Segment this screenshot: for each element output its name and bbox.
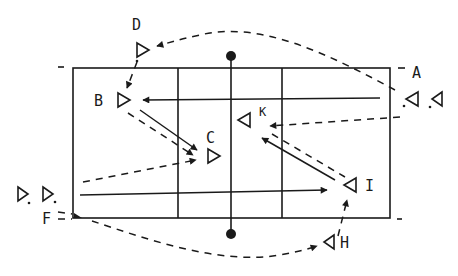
- label-C: C: [206, 129, 215, 147]
- player-C-icon: [208, 149, 220, 163]
- player-D-icon: [137, 43, 149, 57]
- player-K-icon: [238, 113, 250, 127]
- arrow-E-to-I: [80, 190, 327, 195]
- label-I: I: [365, 177, 374, 195]
- label-H: H: [340, 234, 349, 252]
- net-post-bottom-icon: [226, 229, 236, 239]
- player-E2-icon: [43, 187, 53, 201]
- arrow-B-to-C: [140, 110, 197, 150]
- label-D: D: [132, 16, 141, 34]
- arrow-I-to-K: [262, 138, 335, 180]
- court-diagram: A B C D F H I K: [0, 0, 458, 276]
- player-H-icon: [324, 235, 334, 249]
- player-A2-icon: [432, 92, 442, 106]
- dashed-arrow-D-to-B: [127, 62, 137, 88]
- dashed-arrow-E-to-C: [83, 160, 196, 182]
- player-E1-icon: [18, 187, 28, 201]
- dashed-arrow-B-to-C: [128, 113, 193, 155]
- dashed-arrow-A-to-D: [157, 31, 395, 90]
- dashed-arrow-A-to-K: [270, 117, 400, 126]
- dashed-arrow-F-to-H: [92, 221, 317, 257]
- net-post-top-icon: [226, 51, 236, 61]
- player-A-icon: [406, 92, 418, 106]
- label-F: F: [42, 210, 51, 228]
- player-I-icon: [344, 178, 356, 192]
- player-B-icon: [118, 93, 130, 107]
- dashed-arrow-K-to-I: [272, 134, 345, 177]
- label-B: B: [94, 92, 103, 110]
- dashed-line-F: [58, 212, 72, 214]
- label-A: A: [412, 64, 421, 82]
- label-K: K: [259, 105, 267, 119]
